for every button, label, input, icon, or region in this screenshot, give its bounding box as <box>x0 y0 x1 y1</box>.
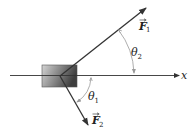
block <box>42 65 77 87</box>
force-f2-label: F 2 <box>91 113 103 129</box>
f2-subscript: 2 <box>99 121 103 129</box>
theta1-subscript: 1 <box>95 97 99 105</box>
f1-subscript: 1 <box>146 26 150 34</box>
theta2-subscript: 2 <box>138 53 142 61</box>
x-axis-label: x <box>181 69 188 82</box>
force-diagram: x F 1 θ 2 F 2 θ 1 <box>0 0 193 134</box>
theta1-label: θ 1 <box>88 90 99 105</box>
force-f1-label: F 1 <box>138 19 150 34</box>
theta2-label: θ 2 <box>131 46 142 61</box>
theta2-arc-start-arrowhead-icon <box>118 30 122 33</box>
